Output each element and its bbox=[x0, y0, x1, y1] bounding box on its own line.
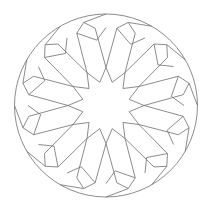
star-point bbox=[100, 129, 112, 144]
star-point bbox=[73, 87, 89, 100]
petal-arm-left bbox=[84, 22, 106, 67]
star-point bbox=[73, 112, 89, 125]
star-point bbox=[123, 112, 139, 125]
petal-arm-left bbox=[144, 83, 189, 105]
outer-link bbox=[189, 83, 197, 105]
inner-link bbox=[77, 28, 106, 41]
inner-link bbox=[28, 106, 41, 135]
inner-link bbox=[67, 167, 95, 183]
petal-arm-left bbox=[139, 125, 189, 135]
petal-arm-right bbox=[23, 125, 73, 135]
inner-link bbox=[106, 171, 135, 184]
outer-link bbox=[15, 106, 23, 128]
inner-link bbox=[171, 76, 184, 105]
petal-arm-right bbox=[106, 22, 128, 67]
petal-arm-right bbox=[77, 22, 87, 72]
petal-arm-right bbox=[125, 138, 135, 188]
star-point bbox=[112, 122, 125, 138]
star-point bbox=[87, 73, 100, 89]
star-point bbox=[68, 99, 83, 111]
inner-link bbox=[29, 67, 45, 95]
star-point bbox=[123, 87, 139, 100]
petal-arm-right bbox=[144, 106, 189, 128]
inner-link bbox=[167, 116, 183, 144]
outer-link bbox=[106, 189, 128, 197]
rosette-diagram bbox=[0, 0, 213, 212]
star-point bbox=[87, 122, 100, 138]
petal-arm-right bbox=[23, 83, 68, 105]
petal-arm-left bbox=[125, 22, 135, 72]
inner-link bbox=[117, 28, 145, 44]
petal-arm-left bbox=[106, 144, 128, 189]
star-point bbox=[129, 99, 144, 111]
outer-link bbox=[84, 14, 106, 22]
petal-arm-left bbox=[23, 106, 68, 128]
petal-arm-right bbox=[84, 144, 106, 189]
petal-group bbox=[15, 14, 198, 197]
star-point bbox=[100, 68, 112, 83]
outer-circle bbox=[15, 14, 198, 197]
petal-arm-left bbox=[23, 76, 73, 86]
star-point bbox=[112, 73, 125, 89]
petal-arm-right bbox=[139, 76, 189, 86]
petal-arm-left bbox=[77, 138, 87, 188]
